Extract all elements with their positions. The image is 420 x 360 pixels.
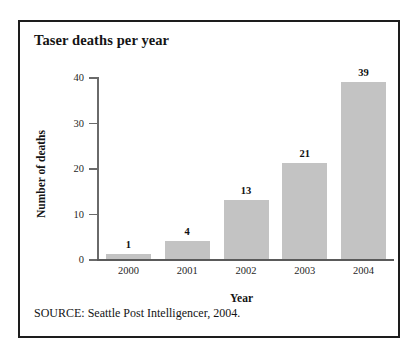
bar-slot[interactable]: 1: [99, 77, 158, 259]
bar-value-label: 13: [217, 185, 276, 196]
bar-slot[interactable]: 4: [158, 77, 217, 259]
x-axis-line: [89, 259, 394, 261]
bar-value-label: 1: [99, 239, 158, 250]
y-axis-tick-label: 40: [58, 72, 84, 83]
x-axis-tick-label: 2002: [217, 265, 276, 276]
source-note: SOURCE: Seattle Post Intelligencer, 2004…: [34, 306, 240, 321]
y-axis-tick: [89, 214, 97, 216]
y-axis-tick-label: 10: [58, 208, 84, 219]
bar[interactable]: [165, 241, 210, 259]
bars-layer: 14132139: [99, 77, 393, 259]
bar-value-label: 21: [275, 148, 334, 159]
x-axis-tick-label: 2000: [99, 265, 158, 276]
y-axis-tick: [89, 168, 97, 170]
y-axis-tick: [89, 259, 97, 261]
bar-value-label: 4: [158, 226, 217, 237]
x-axis-title: Year: [89, 292, 394, 304]
x-axis-tick-label: 2003: [275, 265, 334, 276]
y-axis-tick-label: 20: [58, 163, 84, 174]
x-axis-tick-label: 2001: [158, 265, 217, 276]
bar-slot[interactable]: 21: [275, 77, 334, 259]
x-axis-tick-label: 2004: [334, 265, 393, 276]
figure-frame: Taser deaths per year 010203040 Number o…: [18, 20, 400, 338]
bar-chart-plot-area: 010203040 Number of deaths 14132139 2000…: [20, 22, 402, 340]
bar[interactable]: [341, 82, 386, 259]
bar-value-label: 39: [334, 67, 393, 78]
bar[interactable]: [106, 254, 151, 259]
y-axis-tick-label: 0: [58, 254, 84, 265]
y-axis-tick-label: 30: [58, 117, 84, 128]
y-axis-title: Number of deaths: [35, 114, 47, 234]
bar[interactable]: [224, 200, 269, 259]
bar[interactable]: [282, 163, 327, 259]
y-axis-tick: [89, 77, 97, 79]
bar-slot[interactable]: 13: [217, 77, 276, 259]
bar-slot[interactable]: 39: [334, 77, 393, 259]
y-axis-tick: [89, 123, 97, 125]
